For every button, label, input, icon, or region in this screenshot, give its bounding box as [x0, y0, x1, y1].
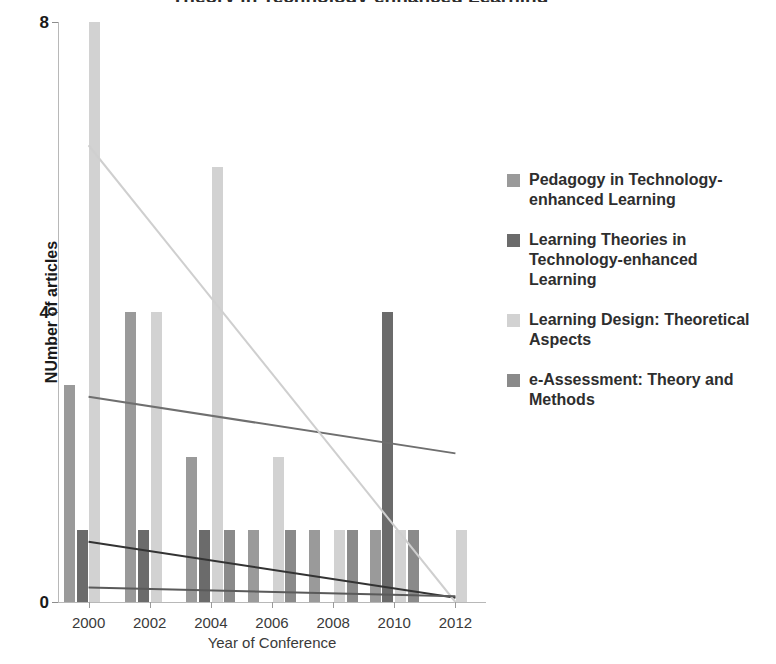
bar	[199, 530, 210, 603]
x-axis-tick	[455, 602, 456, 608]
y-axis-tick	[52, 602, 58, 603]
legend-item-label: e-Assessment: Theory and Methods	[529, 370, 769, 410]
bar	[347, 530, 358, 603]
x-axis-tick	[211, 602, 212, 608]
x-axis-tick	[394, 602, 395, 608]
y-axis-title: NUmber of articles	[43, 202, 61, 422]
x-axis-tick	[333, 602, 334, 608]
x-axis-tick-label: 2006	[255, 614, 288, 631]
legend-item-label: Learning Design: Theoretical Aspects	[529, 310, 769, 350]
legend-item-label: Learning Theories in Technology-enhanced…	[529, 230, 769, 290]
bar	[224, 530, 235, 603]
bar	[382, 312, 393, 602]
legend-item[interactable]: e-Assessment: Theory and Methods	[507, 370, 769, 410]
x-axis-tick-label: 2000	[72, 614, 105, 631]
bar	[248, 530, 259, 603]
y-axis-tick-label: 8	[40, 14, 49, 31]
bar	[186, 457, 197, 602]
bar	[212, 167, 223, 602]
legend-item-label: Pedagogy in Technology-enhanced Learning	[529, 170, 769, 210]
x-axis-tick-label: 2012	[439, 614, 472, 631]
bar	[334, 530, 345, 603]
bar	[456, 530, 467, 603]
x-axis-tick	[89, 602, 90, 608]
bar	[89, 22, 100, 602]
legend-item[interactable]: Learning Design: Theoretical Aspects	[507, 310, 769, 350]
legend-item[interactable]: Pedagogy in Technology-enhanced Learning	[507, 170, 769, 210]
bar	[408, 530, 419, 603]
bar	[395, 530, 406, 603]
bar	[151, 312, 162, 602]
bar	[285, 530, 296, 603]
x-axis-tick-label: 2002	[133, 614, 166, 631]
trendline	[89, 397, 456, 454]
bar	[125, 312, 136, 602]
y-axis-tick-label: 0	[40, 594, 49, 611]
x-axis-tick-label: 2004	[194, 614, 227, 631]
bar	[309, 530, 320, 603]
bar	[64, 385, 75, 603]
chart-title: Theory in Technology-enhanced Learning	[150, 0, 570, 2]
legend-swatch-icon	[507, 374, 520, 387]
chart-legend: Pedagogy in Technology-enhanced Learning…	[507, 170, 769, 430]
bar	[77, 530, 88, 603]
legend-swatch-icon	[507, 234, 520, 247]
bar	[273, 457, 284, 602]
y-axis-tick	[52, 22, 58, 23]
x-axis-tick-label: 2008	[316, 614, 349, 631]
plot-area: 048 2000200220042006200820102012 NUmber …	[58, 22, 486, 602]
legend-swatch-icon	[507, 314, 520, 327]
legend-swatch-icon	[507, 174, 520, 187]
bar	[370, 530, 381, 603]
x-axis-title: Year of Conference	[58, 634, 486, 651]
x-axis-tick-label: 2010	[378, 614, 411, 631]
legend-item[interactable]: Learning Theories in Technology-enhanced…	[507, 230, 769, 290]
x-axis-tick	[150, 602, 151, 608]
x-axis-tick	[272, 602, 273, 608]
chart-figure: Theory in Technology-enhanced Learning 0…	[0, 0, 776, 664]
bar	[138, 530, 149, 603]
